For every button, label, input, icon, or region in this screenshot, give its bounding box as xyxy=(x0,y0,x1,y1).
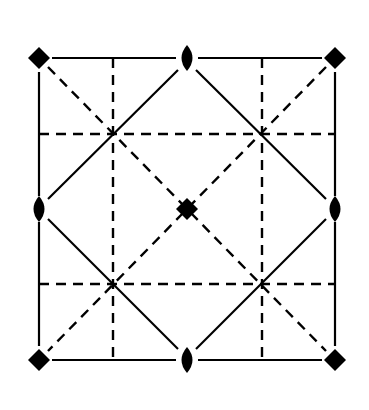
four-fold-diamond-icon xyxy=(28,47,50,69)
two-fold-lens-icon xyxy=(182,45,193,71)
two-fold-lens-icon xyxy=(330,196,341,222)
two-fold-lens-icon xyxy=(182,347,193,373)
symmetry-diagram xyxy=(0,0,369,410)
four-fold-diamond-icon xyxy=(324,47,346,69)
four-fold-diamond-icon xyxy=(324,349,346,371)
two-fold-lens-icon xyxy=(34,196,45,222)
four-fold-diamond-icon xyxy=(28,349,50,371)
